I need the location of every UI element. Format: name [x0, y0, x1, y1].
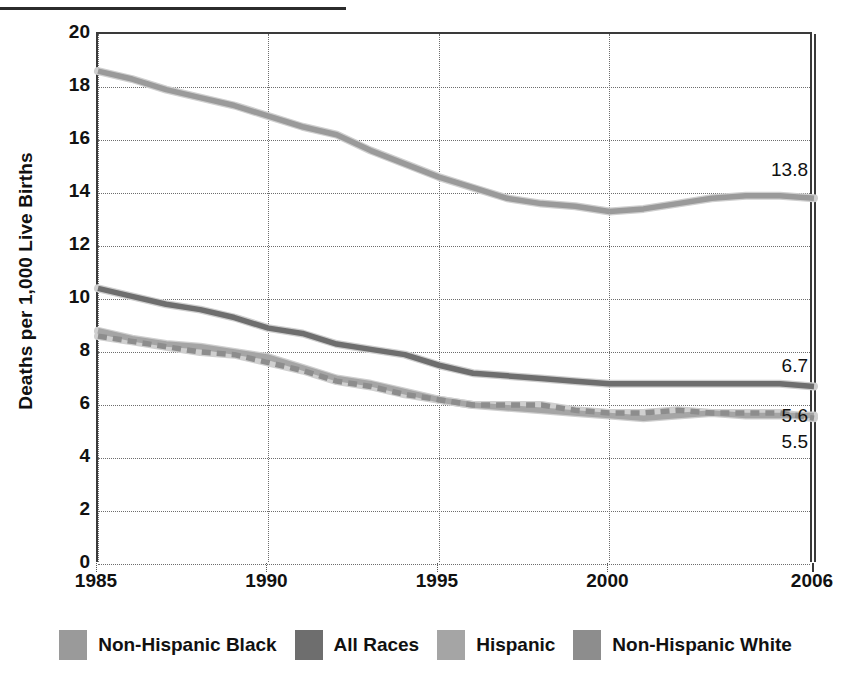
x-axis-tick-labels: 19851990199520002006	[96, 570, 812, 600]
x-tick-1985: 1985	[75, 570, 117, 592]
value-label-5-6: 5.6	[782, 405, 808, 427]
y-tick-4: 4	[44, 445, 90, 467]
series-line-non-hispanic-black	[98, 71, 814, 211]
y-tick-12: 12	[44, 233, 90, 255]
legend-label: Hispanic	[476, 634, 555, 656]
x-tick-1990: 1990	[245, 570, 287, 592]
x-tick-2000: 2000	[586, 570, 628, 592]
y-tick-6: 6	[44, 392, 90, 414]
series-lines	[98, 34, 814, 564]
y-tick-10: 10	[44, 286, 90, 308]
y-tick-18: 18	[44, 74, 90, 96]
plot-area	[96, 32, 812, 562]
x-tick-2006: 2006	[791, 570, 833, 592]
legend-item-hispanic[interactable]: Hispanic	[437, 630, 555, 660]
y-axis-title-text: Deaths per 1,000 Live Births	[15, 152, 37, 409]
y-tick-8: 8	[44, 339, 90, 361]
legend-label: All Races	[334, 634, 420, 656]
series-line-all-races	[98, 288, 814, 386]
legend-item-non-hispanic-white[interactable]: Non-Hispanic White	[573, 630, 791, 660]
legend-item-non-hispanic-black[interactable]: Non-Hispanic Black	[59, 630, 276, 660]
value-label-13-8: 13.8	[771, 159, 808, 181]
value-label-6-7: 6.7	[782, 355, 808, 377]
series-halo-0	[98, 71, 814, 211]
legend-label: Non-Hispanic White	[612, 634, 791, 656]
legend-swatch-icon	[59, 630, 87, 660]
chart-legend: Non-Hispanic BlackAll RacesHispanicNon-H…	[0, 620, 851, 670]
y-tick-14: 14	[44, 180, 90, 202]
y-tick-2: 2	[44, 498, 90, 520]
legend-swatch-icon	[437, 630, 465, 660]
value-label-5-5: 5.5	[782, 431, 808, 453]
legend-label: Non-Hispanic Black	[98, 634, 276, 656]
y-tick-20: 20	[44, 21, 90, 43]
y-axis-tick-labels: 20181614121086420	[36, 32, 90, 562]
legend-swatch-icon	[295, 630, 323, 660]
gridline-h-0	[98, 564, 810, 565]
header-rule	[0, 7, 346, 10]
legend-swatch-icon	[573, 630, 601, 660]
legend-item-all-races[interactable]: All Races	[295, 630, 420, 660]
gridline-v-2006	[814, 34, 816, 562]
y-tick-16: 16	[44, 127, 90, 149]
x-tick-1995: 1995	[416, 570, 458, 592]
infant-mortality-chart: Deaths per 1,000 Live Births 20181614121…	[0, 0, 851, 678]
